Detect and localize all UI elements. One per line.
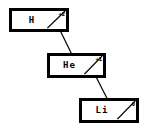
node-helium-charge: +1 bbox=[95, 57, 102, 63]
node-hydrogen-charge: +2 bbox=[58, 12, 65, 18]
node-hydrogen[interactable]: H +2 bbox=[10, 9, 68, 31]
node-hydrogen-inner: H +2 bbox=[12, 11, 66, 29]
node-lithium-symbol: Li bbox=[82, 101, 136, 120]
node-lithium-charge: 0 bbox=[132, 102, 135, 108]
node-helium-inner: He +1 bbox=[50, 56, 103, 75]
diagram-canvas: H +2 He +1 Li 0 bbox=[0, 0, 144, 129]
node-lithium[interactable]: Li 0 bbox=[80, 99, 138, 122]
node-lithium-inner: Li 0 bbox=[82, 101, 136, 120]
node-helium[interactable]: He +1 bbox=[48, 54, 105, 77]
